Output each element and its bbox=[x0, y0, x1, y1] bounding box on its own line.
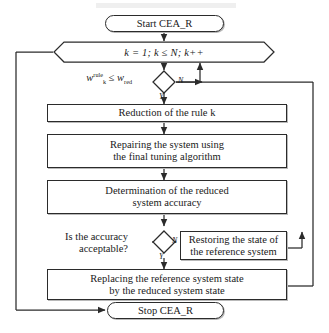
w-rule-subscript: k bbox=[103, 78, 106, 85]
stop-label: Stop CEA_R bbox=[138, 305, 193, 316]
process-restoring[interactable]: Restoring the state of the reference sys… bbox=[180, 231, 287, 260]
w-red-subscript: red bbox=[124, 78, 132, 85]
process-replacing-line2: by the reduced system state bbox=[106, 285, 227, 297]
decision1-yes-label: Y bbox=[159, 92, 163, 101]
flowchart-canvas: Start CEA_R k = 1; k ≤ N; k++ wrulek ≤ w… bbox=[0, 0, 329, 333]
condition2-label: Is the accuracy acceptable? bbox=[22, 231, 128, 254]
w-rule-superscript: rule bbox=[93, 71, 103, 78]
decision2-yes-label: Y bbox=[159, 252, 163, 261]
condition2-line2: acceptable? bbox=[22, 243, 128, 255]
process-determination-line2: system accuracy bbox=[129, 197, 204, 209]
start-terminator[interactable]: Start CEA_R bbox=[105, 15, 224, 32]
process-restoring-line2: the reference system bbox=[187, 246, 279, 258]
loop-label: k = 1; k ≤ N; k++ bbox=[53, 41, 275, 63]
loop-hexagon[interactable]: k = 1; k ≤ N; k++ bbox=[53, 41, 275, 63]
diamond-shape bbox=[152, 70, 176, 94]
process-replacing[interactable]: Replacing the reference system state by … bbox=[47, 269, 287, 300]
stop-terminator[interactable]: Stop CEA_R bbox=[107, 302, 224, 319]
process-repairing-line1: Repairing the system using bbox=[107, 139, 227, 151]
process-repairing-line2: the final tuning algorithm bbox=[110, 151, 224, 163]
process-determination-line1: Determination of the reduced bbox=[102, 185, 231, 197]
process-restoring-line1: Restoring the state of bbox=[186, 234, 282, 246]
process-determination[interactable]: Determination of the reduced system accu… bbox=[47, 180, 287, 214]
process-reduction-label: Reduction of the rule k bbox=[116, 107, 219, 119]
decision1-no-label: N bbox=[178, 76, 183, 85]
decision2-no-label: N bbox=[172, 236, 177, 245]
le-operator: ≤ bbox=[109, 72, 115, 83]
process-reduction[interactable]: Reduction of the rule k bbox=[47, 104, 287, 122]
start-label: Start CEA_R bbox=[137, 18, 193, 29]
process-replacing-line1: Replacing the reference system state bbox=[87, 273, 246, 285]
condition2-line1: Is the accuracy bbox=[22, 231, 128, 243]
process-repairing[interactable]: Repairing the system using the final tun… bbox=[47, 134, 287, 168]
condition1-label: wrulek ≤ wred bbox=[56, 72, 132, 84]
decision-weight-threshold[interactable] bbox=[152, 70, 176, 94]
